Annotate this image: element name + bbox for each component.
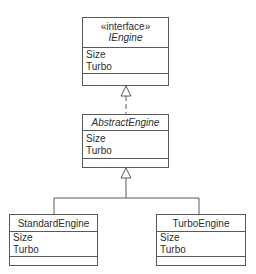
class-header: TurboEngine xyxy=(157,215,245,232)
realization-arrowhead-icon xyxy=(121,86,131,96)
class-operations xyxy=(157,257,245,265)
class-operations xyxy=(83,74,168,85)
attribute-size: Size xyxy=(13,232,97,244)
class-name: AbstractEngine xyxy=(92,117,160,128)
class-iengine[interactable]: «interface» IEngine Size Turbo xyxy=(82,17,169,86)
class-abstractengine[interactable]: AbstractEngine Size Turbo xyxy=(82,114,169,168)
class-standardengine[interactable]: StandardEngine Size Turbo xyxy=(9,214,98,266)
attribute-turbo: Turbo xyxy=(13,244,97,256)
class-attributes: Size Turbo xyxy=(10,232,97,257)
class-operations xyxy=(83,159,168,167)
attribute-size: Size xyxy=(86,49,168,61)
class-header: «interface» IEngine xyxy=(83,18,168,48)
attribute-turbo: Turbo xyxy=(86,145,168,157)
class-operations xyxy=(10,257,97,265)
class-attributes: Size Turbo xyxy=(83,131,168,159)
class-attributes: Size Turbo xyxy=(83,48,168,74)
generalization-arrowhead-icon xyxy=(121,168,131,178)
class-attributes: Size Turbo xyxy=(157,232,245,257)
generalization-branch xyxy=(54,198,199,214)
class-name: TurboEngine xyxy=(173,218,230,229)
class-turboengine[interactable]: TurboEngine Size Turbo xyxy=(156,214,246,266)
class-name: StandardEngine xyxy=(18,218,90,229)
class-stereotype: «interface» xyxy=(83,21,168,32)
attribute-turbo: Turbo xyxy=(160,244,245,256)
class-header: AbstractEngine xyxy=(83,115,168,131)
class-name: IEngine xyxy=(83,32,168,43)
attribute-turbo: Turbo xyxy=(86,61,168,73)
class-header: StandardEngine xyxy=(10,215,97,232)
attribute-size: Size xyxy=(160,232,245,244)
attribute-size: Size xyxy=(86,133,168,145)
